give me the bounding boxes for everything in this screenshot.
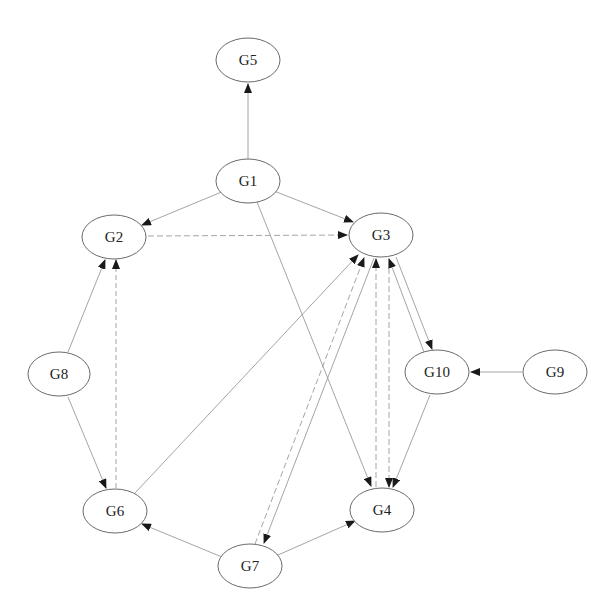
node-g3[interactable]: G3	[349, 213, 413, 257]
edge-g8-g6[interactable]	[68, 397, 106, 488]
node-label: G8	[50, 366, 68, 382]
edges	[68, 84, 522, 557]
edge-g7-g3[interactable]	[255, 258, 364, 544]
node-label: G3	[372, 227, 390, 243]
node-label: G5	[239, 52, 257, 68]
node-g1[interactable]: G1	[216, 159, 280, 203]
edge-g7-g4[interactable]	[278, 521, 355, 555]
edge-g10-g4[interactable]	[393, 395, 430, 487]
edge-g7-g6[interactable]	[142, 524, 222, 557]
node-g7[interactable]: G7	[218, 544, 282, 588]
node-g8[interactable]: G8	[28, 352, 90, 396]
edge-g1-g3[interactable]	[274, 191, 353, 222]
node-label: G10	[424, 364, 450, 380]
node-label: G2	[105, 229, 123, 245]
edge-g10-g3[interactable]	[389, 259, 424, 352]
edge-g1-g2[interactable]	[142, 191, 224, 225]
node-label: G6	[106, 503, 125, 519]
node-g2[interactable]: G2	[82, 215, 146, 259]
node-g10[interactable]: G10	[405, 350, 469, 394]
node-g4[interactable]: G4	[350, 488, 414, 532]
edge-g8-g2[interactable]	[68, 260, 105, 352]
node-label: G1	[239, 173, 257, 189]
nodes: G5 G1 G2 G3 G8 G10 G9 G6	[28, 38, 587, 588]
node-label: G7	[241, 558, 260, 574]
node-label: G9	[546, 364, 564, 380]
node-g5[interactable]: G5	[216, 38, 280, 82]
node-g9[interactable]: G9	[523, 350, 587, 394]
edge-g6-g3[interactable]	[135, 255, 358, 493]
dependency-graph: G5 G1 G2 G3 G8 G10 G9 G6	[0, 0, 608, 607]
edge-g2-g3[interactable]	[148, 235, 347, 236]
node-label: G4	[373, 502, 392, 518]
edge-g3-g10[interactable]	[396, 257, 432, 349]
node-g6[interactable]: G6	[83, 489, 147, 533]
